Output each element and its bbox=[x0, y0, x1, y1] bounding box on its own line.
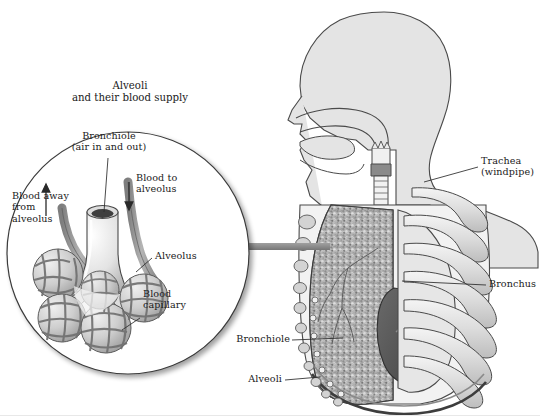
label-bronchus: Bronchus bbox=[489, 278, 540, 289]
bronchiole-lumen bbox=[92, 209, 114, 218]
label-blood-capillary: Blood capillary bbox=[143, 288, 207, 311]
respiratory-system-illustration: Alveoli and their blood supply Bronchiol… bbox=[0, 0, 540, 417]
bottom-frame-line bbox=[0, 415, 540, 416]
larynx-band bbox=[371, 164, 391, 176]
label-trachea: Trachea (windpipe) bbox=[481, 155, 540, 178]
label-alveoli-body: Alveoli bbox=[234, 373, 282, 384]
inset-title: Alveoli and their blood supply bbox=[40, 80, 220, 105]
label-bronchiole-body: Bronchiole bbox=[226, 333, 290, 344]
leader-trachea bbox=[424, 167, 478, 182]
label-blood-away-from-alveolus: Blood away from alveolus bbox=[12, 190, 84, 224]
torso-figure bbox=[288, 12, 538, 414]
label-alveolus-inset: Alveolus bbox=[155, 250, 219, 261]
epiglottis bbox=[372, 141, 390, 148]
label-blood-to-alveolus: Blood to alveolus bbox=[136, 172, 206, 195]
label-bronchiole-inset: Bronchiole (air in and out) bbox=[62, 130, 156, 153]
